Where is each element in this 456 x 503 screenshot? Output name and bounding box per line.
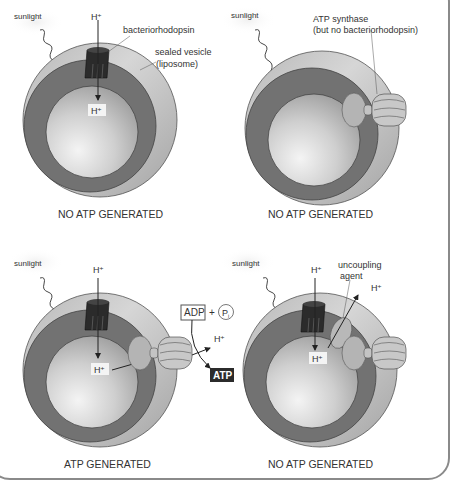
vesicle (245, 51, 399, 205)
proton-out-arrow (192, 348, 210, 355)
bacteriorhodopsin-icon (85, 47, 109, 78)
h-plus-outside: H⁺ (311, 265, 323, 275)
sunlight-label: sunlight (14, 12, 42, 21)
sunlight-label: sunlight (231, 11, 259, 20)
svg-text:i: i (228, 313, 229, 319)
atp-label: ATP (213, 370, 233, 381)
panel-4: sunlight H⁺ H⁺ H⁺ uncoupling agent NO AT… (220, 248, 406, 470)
h-plus-outside: H⁺ (91, 12, 103, 22)
h-plus-synthase-out: H⁺ (214, 334, 226, 344)
bacteriorhodopsin-icon (301, 301, 325, 332)
panel-1: sunlight H⁺ H⁺ bacteriorhodopsin sealed … (8, 8, 212, 220)
h-plus-inside: H⁺ (94, 365, 106, 375)
uncoupling-label-line1: uncoupling (338, 260, 382, 270)
bacteriorhodopsin-label: bacteriorhodopsin (123, 25, 195, 35)
atp-synthesis-arrow (191, 320, 210, 368)
panel-4-caption: NO ATP GENERATED (268, 458, 373, 470)
panel-2: sunlight ATP synthase (but no bacteriorh… (220, 6, 418, 220)
h-plus-outside: H⁺ (93, 265, 105, 275)
panel-3: sunlight H⁺ H⁺ H⁺ ADP + P i ATP ATP GENE… (8, 248, 234, 470)
panel-3-caption: ATP GENERATED (64, 458, 151, 470)
plus-sign: + (209, 307, 215, 318)
sunlight-label: sunlight (232, 259, 260, 268)
panel-1-caption: NO ATP GENERATED (58, 208, 163, 220)
atp-synthase-label-line1: ATP synthase (313, 14, 368, 24)
uncoupling-label-line2: agent (340, 271, 363, 281)
liposome-experiment-diagram: sunlight H⁺ H⁺ bacteriorhodopsin sealed … (0, 0, 456, 503)
adp-label: ADP (184, 307, 205, 318)
h-plus-leak: H⁺ (371, 283, 383, 293)
panel-2-caption: NO ATP GENERATED (268, 208, 373, 220)
h-plus-inside: H⁺ (91, 106, 103, 116)
sunlight-label: sunlight (14, 259, 42, 268)
sunlight-ray-icon (255, 30, 272, 71)
h-plus-inside: H⁺ (312, 354, 324, 364)
bacteriorhodopsin-icon (85, 299, 109, 330)
atp-synthase-label-line2: (but no bacteriorhodopsin) (313, 25, 418, 35)
vesicle-label-line2: (liposome) (156, 59, 198, 69)
vesicle-label-line1: sealed vesicle (155, 47, 212, 57)
